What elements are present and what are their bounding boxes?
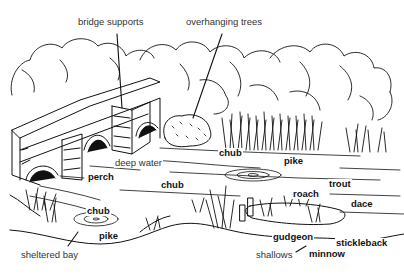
label-sheltered-bay: sheltered bay [20,250,79,260]
label-overhanging-trees: overhanging trees [185,17,263,27]
label-fish-roach: roach [292,189,320,199]
label-fish-chub: chub [218,148,243,158]
label-shallows: shallows [255,250,293,260]
label-fish-perch: perch [87,172,115,182]
tree-canopy [11,39,392,120]
label-fish-trout: trout [328,179,352,189]
riverside-bush [164,34,222,147]
label-fish-chub: chub [86,206,111,216]
label-fish-chub: chub [160,180,185,190]
label-fish-stickleback: stickleback [335,238,388,248]
label-fish-pike: pike [283,156,304,166]
label-fish-gudgeon: gudgeon [272,232,314,242]
label-fish-minnow: minnow [308,249,346,259]
river-habitat-diagram: bridge supports overhanging trees deep w… [0,0,404,276]
label-bridge-supports: bridge supports [77,17,144,27]
label-fish-dace: dace [350,199,374,209]
label-fish-pike: pike [98,231,119,241]
label-deep-water: deep water [114,158,163,168]
reed-bed [222,112,386,152]
river-scene-illustration [0,0,404,276]
